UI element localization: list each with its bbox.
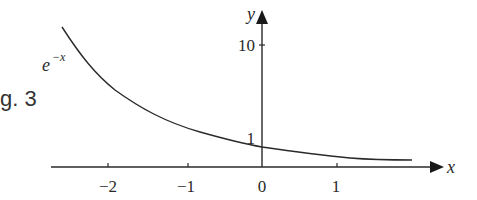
x-tick-label: −2: [99, 177, 117, 196]
svg-text:e: e: [42, 55, 50, 75]
y-tick-label: 10: [238, 36, 255, 55]
x-tick-label: 0: [258, 177, 267, 196]
x-axis: x −2 −1 0 1: [51, 157, 455, 196]
x-axis-arrow-icon: [430, 161, 444, 173]
x-tick-label: −1: [177, 177, 195, 196]
x-axis-label: x: [446, 157, 455, 177]
exp-decay-curve: [62, 27, 412, 160]
exponential-decay-figure: g. 3 x −2 −1 0 1 y 10 1 e −x: [0, 0, 477, 200]
figure-caption: g. 3: [0, 86, 37, 111]
curve-label: e −x: [42, 50, 66, 75]
svg-text:−x: −x: [52, 50, 66, 64]
y-axis-arrow-icon: [256, 10, 268, 24]
x-tick-label: 1: [332, 177, 341, 196]
y-axis-label: y: [245, 4, 255, 24]
